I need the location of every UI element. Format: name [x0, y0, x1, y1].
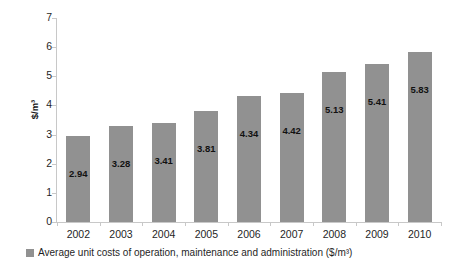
bar	[152, 123, 176, 222]
x-axis-tick-mark	[398, 222, 399, 226]
x-axis-tick-label: 2005	[185, 228, 228, 240]
bar-value-label: 4.34	[237, 128, 261, 139]
x-axis-tick-label: 2004	[142, 228, 185, 240]
y-axis-tick-label: 0	[46, 215, 52, 227]
y-axis-tick-label: 2	[46, 157, 52, 169]
bar	[237, 96, 261, 222]
legend-color-swatch	[26, 249, 34, 257]
bar-value-label: 5.13	[322, 104, 346, 115]
x-axis-tick-label: 2002	[57, 228, 100, 240]
x-axis-tick-mark	[185, 222, 186, 226]
bar-value-label: 2.94	[66, 168, 90, 179]
bar-value-label: 5.83	[408, 84, 432, 95]
y-axis-title: $/m³	[29, 90, 40, 130]
x-axis-tick-mark	[142, 222, 143, 226]
x-axis-tick-label: 2006	[228, 228, 271, 240]
legend-label: Average unit costs of operation, mainten…	[38, 247, 352, 258]
x-axis-tick-mark	[356, 222, 357, 226]
x-axis-tick-label: 2007	[270, 228, 313, 240]
bar-chart: $/m³ 76543210 20022003200420052006200720…	[0, 0, 458, 267]
y-axis-tick-label: 6	[46, 40, 52, 52]
bar-value-label: 5.41	[365, 96, 389, 107]
y-axis-line	[56, 18, 57, 223]
bar	[109, 126, 133, 222]
y-axis-tick-label: 1	[46, 186, 52, 198]
x-axis-tick-label: 2008	[313, 228, 356, 240]
chart-legend: Average unit costs of operation, mainten…	[26, 247, 352, 258]
x-axis-tick-label: 2009	[356, 228, 399, 240]
x-axis-tick-label: 2003	[100, 228, 143, 240]
bar	[322, 72, 346, 222]
x-axis-tick-label: 2010	[398, 228, 441, 240]
x-axis-tick-mark	[441, 222, 442, 226]
x-axis-tick-mark	[313, 222, 314, 226]
bar-value-label: 4.42	[280, 125, 304, 136]
y-axis-tick-label: 7	[46, 11, 52, 23]
x-axis-tick-mark	[57, 222, 58, 226]
y-axis-tick-label: 4	[46, 98, 52, 110]
y-axis-tick-label: 5	[46, 69, 52, 81]
x-axis-tick-mark	[228, 222, 229, 226]
y-axis-tick-label: 3	[46, 128, 52, 140]
bar	[365, 64, 389, 222]
x-axis-tick-mark	[270, 222, 271, 226]
bar	[408, 52, 432, 222]
x-axis-line	[56, 222, 441, 223]
x-axis-tick-mark	[100, 222, 101, 226]
bar	[194, 111, 218, 222]
bar	[280, 93, 304, 222]
bar-value-label: 3.81	[194, 143, 218, 154]
bar-value-label: 3.28	[109, 158, 133, 169]
bar-value-label: 3.41	[152, 155, 176, 166]
